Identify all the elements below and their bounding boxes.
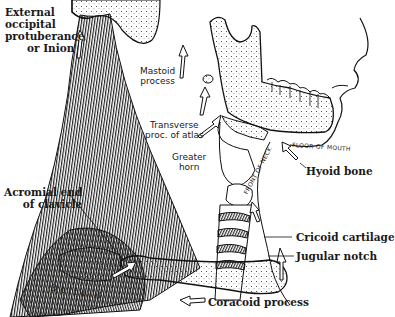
label-line: Acromial end: [4, 186, 82, 198]
label-line: External: [5, 6, 84, 18]
label-line: Transverse: [145, 120, 204, 130]
mandible: [210, 17, 333, 132]
label-line: occipital: [5, 18, 84, 30]
label-line: or Inion: [5, 42, 84, 54]
label-line: Mastoid: [140, 66, 175, 76]
label-greater-horn: Greater horn: [172, 152, 206, 172]
label-acromial-end: Acromial end of clavicle: [4, 186, 82, 210]
label-external-occipital: External occipital protuberance or Inion: [5, 6, 84, 54]
atlas-process: [203, 75, 213, 83]
label-line: protuberance: [5, 30, 84, 42]
label-line: Greater: [172, 152, 206, 162]
label-line: process: [140, 76, 175, 86]
label-cricoid-cartilage: Cricoid cartilage: [296, 231, 395, 243]
label-line: of clavicle: [4, 198, 82, 210]
label-jugular-notch: Jugular notch: [296, 250, 377, 262]
label-line: horn: [172, 162, 206, 172]
label-mastoid-process: Mastoid process: [140, 66, 175, 86]
label-line: proc. of atlas: [145, 130, 204, 140]
label-coracoid-process: Coracoid process: [208, 296, 309, 308]
label-transverse-atlas: Transverse proc. of atlas: [145, 120, 204, 140]
label-hyoid-bone: Hyoid bone: [306, 165, 373, 177]
